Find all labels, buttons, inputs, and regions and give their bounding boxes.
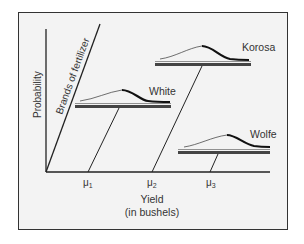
x-axis-unit-label: (in bushels): [125, 206, 179, 218]
korosa-curve-thin: [160, 46, 202, 59]
tick-mu1: μ1: [83, 177, 93, 189]
y-axis-label: Probability: [32, 71, 43, 118]
x-axis-label: Yield: [141, 193, 164, 205]
white-mean-connector: [88, 108, 119, 172]
brand-label-korosa: Korosa: [242, 41, 275, 53]
tick-mu2: μ2: [147, 177, 157, 189]
white-curve-thin: [80, 90, 122, 101]
wolfe-distribution: [178, 135, 270, 172]
svg-text:μ3: μ3: [206, 177, 216, 189]
white-platform: [75, 105, 171, 108]
white-distribution: [75, 90, 171, 172]
brands-axis: [46, 24, 100, 172]
svg-text:μ2: μ2: [147, 177, 157, 189]
korosa-platform: [155, 63, 251, 66]
wolfe-platform: [178, 151, 270, 154]
svg-text:μ1: μ1: [83, 177, 93, 189]
wolfe-mean-connector: [210, 154, 218, 172]
wolfe-curve-thin: [184, 135, 227, 147]
korosa-mean-connector: [152, 66, 202, 172]
brand-label-wolfe: Wolfe: [250, 128, 277, 140]
fertilizer-yield-diagram: Probability Brands of fertilizer White K…: [0, 0, 304, 244]
brand-label-white: White: [149, 85, 176, 97]
tick-mu3: μ3: [206, 177, 216, 189]
